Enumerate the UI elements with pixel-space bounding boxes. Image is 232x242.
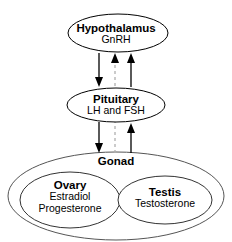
hypothalamus-label-group: Hypothalamus GnRH [0, 22, 232, 46]
arrow-gonad-to-hypothalamus-dashed-upper [111, 53, 119, 86]
arrow-pituitary-to-gonad [95, 122, 103, 153]
pituitary-label-group: Pituitary LH and FSH [0, 93, 232, 117]
hpg-axis-diagram: Hypothalamus GnRH Pituitary LH and FSH G… [0, 0, 232, 242]
arrow-hypothalamus-to-pituitary [95, 53, 103, 87]
ovary-label-group: Ovary Estradiol Progesterone [20, 179, 120, 214]
testis-hormone-testosterone: Testosterone [118, 198, 212, 209]
arrow-gonad-to-pituitary [127, 123, 135, 153]
testis-label-group: Testis Testosterone [118, 186, 212, 210]
pituitary-hormones: LH and FSH [0, 105, 232, 116]
hypothalamus-hormone: GnRH [0, 34, 232, 45]
gonad-name: Gonad [0, 155, 232, 167]
arrow-pituitary-to-hypothalamus [127, 53, 135, 87]
ovary-hormone-progesterone: Progesterone [20, 203, 120, 214]
